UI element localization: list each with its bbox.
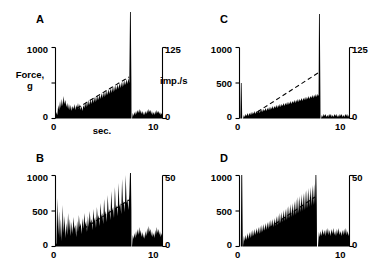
panel-d: D 1000 500 0 50 0 0 10 <box>192 139 383 277</box>
panel-c-plot <box>192 0 383 139</box>
panel-b: B 1000 500 0 50 0 0 10 <box>0 139 192 277</box>
panel-b-plot <box>0 139 192 277</box>
panel-a: A 1000 Force, g 0 125 imp./s 0 0 sec. 10 <box>0 0 192 139</box>
panel-a-trace <box>56 12 163 119</box>
panel-d-plot <box>192 139 383 277</box>
panel-c-trace <box>240 14 350 119</box>
panel-c: C 1000 500 0 125 0 0 10 <box>192 0 383 139</box>
figure-panel-grid: A 1000 Force, g 0 125 imp./s 0 0 sec. 10 <box>0 0 383 277</box>
panel-b-trace <box>56 173 163 247</box>
panel-a-plot <box>0 0 192 139</box>
